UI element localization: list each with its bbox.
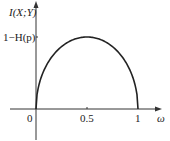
x-axis-label: ω — [157, 113, 165, 124]
x-tick-label-mid: 0.5 — [80, 113, 94, 124]
mutual-information-curve — [36, 37, 138, 109]
x-tick-label-0: 0 — [27, 113, 33, 124]
y-axis-label: I(X;Y) — [9, 7, 37, 18]
y-tick-label: 1−H(p) — [3, 32, 35, 43]
x-axis-arrow-icon — [155, 107, 162, 112]
x-tick-label-1: 1 — [135, 113, 141, 124]
chart-area: I(X;Y) 1−H(p) 0 0.5 1 ω — [0, 0, 170, 141]
